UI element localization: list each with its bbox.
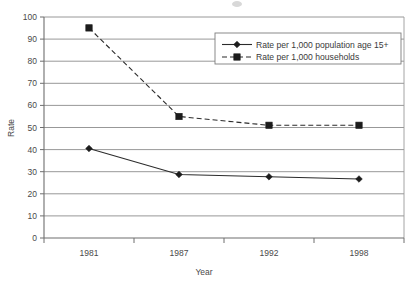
square-marker (234, 54, 240, 60)
chart-canvas: 100 90 80 70 60 50 40 30 20 10 0 1981 19… (0, 0, 413, 282)
x-tick-label: 1998 (350, 248, 369, 258)
y-tick-label: 0 (32, 233, 37, 243)
x-tick-marks (44, 238, 404, 243)
diamond-marker (356, 176, 363, 183)
square-marker (86, 25, 92, 31)
square-marker (266, 122, 272, 128)
y-tick-label: 80 (28, 56, 38, 66)
y-tick-label: 70 (28, 78, 38, 88)
x-axis-title: Year (195, 267, 212, 277)
x-axis-tick-labels: 1981 1987 1992 1998 (80, 248, 369, 258)
legend-label: Rate per 1,000 population age 15+ (256, 40, 389, 50)
x-tick-label: 1987 (170, 248, 189, 258)
y-tick-label: 30 (28, 167, 38, 177)
chart-legend[interactable]: Rate per 1,000 population age 15+ Rate p… (215, 33, 401, 64)
y-tick-label: 100 (23, 12, 37, 22)
y-tick-marks (40, 17, 44, 238)
scan-artifact (232, 1, 242, 7)
y-tick-label: 50 (28, 123, 38, 133)
series-markers-population (86, 145, 363, 182)
y-tick-label: 90 (28, 34, 38, 44)
y-axis-title: Rate (6, 119, 16, 137)
series-line-population (89, 149, 359, 180)
y-tick-label: 40 (28, 145, 38, 155)
square-marker (356, 122, 362, 128)
line-chart-figure: 100 90 80 70 60 50 40 30 20 10 0 1981 19… (0, 0, 413, 282)
legend-label: Rate per 1,000 households (256, 52, 359, 62)
y-tick-label: 60 (28, 100, 38, 110)
diamond-marker (86, 145, 93, 152)
y-tick-label: 20 (28, 189, 38, 199)
x-tick-label: 1981 (80, 248, 99, 258)
diamond-marker (176, 171, 183, 178)
square-marker (176, 113, 182, 119)
y-axis-tick-labels: 100 90 80 70 60 50 40 30 20 10 0 (23, 12, 37, 243)
diamond-marker (266, 174, 273, 181)
x-tick-label: 1992 (260, 248, 279, 258)
y-tick-label: 10 (28, 211, 38, 221)
